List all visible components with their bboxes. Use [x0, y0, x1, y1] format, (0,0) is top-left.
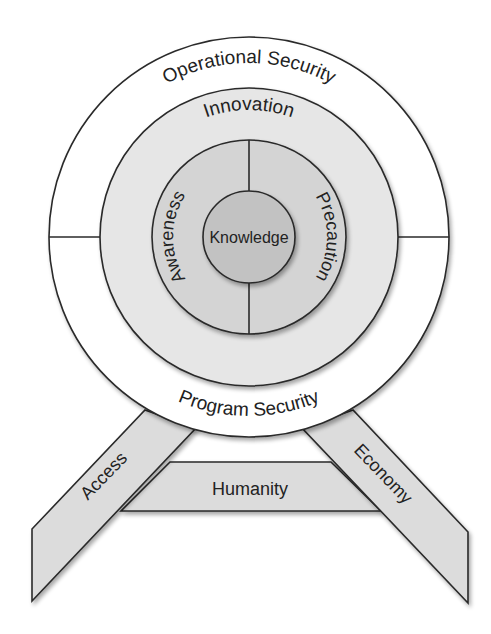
knowledge-label: Knowledge: [209, 229, 288, 246]
humanity-label: Humanity: [212, 479, 288, 499]
security-target-diagram: Operational Security Program Security In…: [0, 0, 491, 634]
